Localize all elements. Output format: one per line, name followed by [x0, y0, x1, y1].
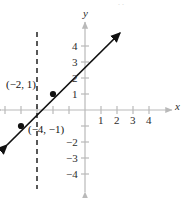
- y-tick-label-neg-3: −3: [66, 153, 78, 164]
- point-label-b: (−4, −1): [28, 124, 64, 135]
- y-tick-label-4: 4: [72, 41, 78, 52]
- coordinate-plane-svg: [0, 0, 193, 198]
- x-tick-label-4: 4: [146, 115, 152, 126]
- x-axis-label: x: [175, 101, 180, 112]
- y-axis-label: y: [83, 8, 88, 19]
- y-tick-label-neg-4: −4: [66, 169, 78, 180]
- plotted-point: [18, 123, 24, 129]
- graph-figure: . .: [0, 0, 193, 198]
- x-tick-label-2: 2: [114, 115, 120, 126]
- plotted-point: [50, 91, 56, 97]
- y-tick-label-1: 1: [72, 89, 78, 100]
- x-tick-label-3: 3: [130, 115, 136, 126]
- y-tick-label-2: 2: [72, 73, 78, 84]
- y-tick-label-neg-2: −2: [66, 137, 78, 148]
- x-tick-label-1: 1: [98, 115, 104, 126]
- y-tick-label-3: 3: [72, 57, 78, 68]
- point-label-a: (−2, 1): [6, 79, 36, 90]
